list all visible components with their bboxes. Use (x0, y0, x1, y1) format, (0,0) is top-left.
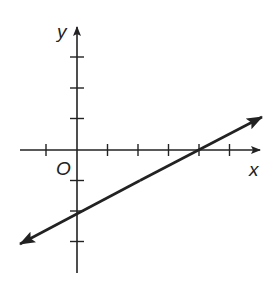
y-axis-label: y (55, 21, 68, 42)
x-axis-label: x (248, 159, 260, 180)
x-axis (20, 144, 260, 156)
graphed-line-extension (20, 181, 140, 245)
graphed-line (140, 117, 262, 181)
origin-label: O (56, 158, 71, 179)
coordinate-graph: y x O (0, 0, 280, 285)
